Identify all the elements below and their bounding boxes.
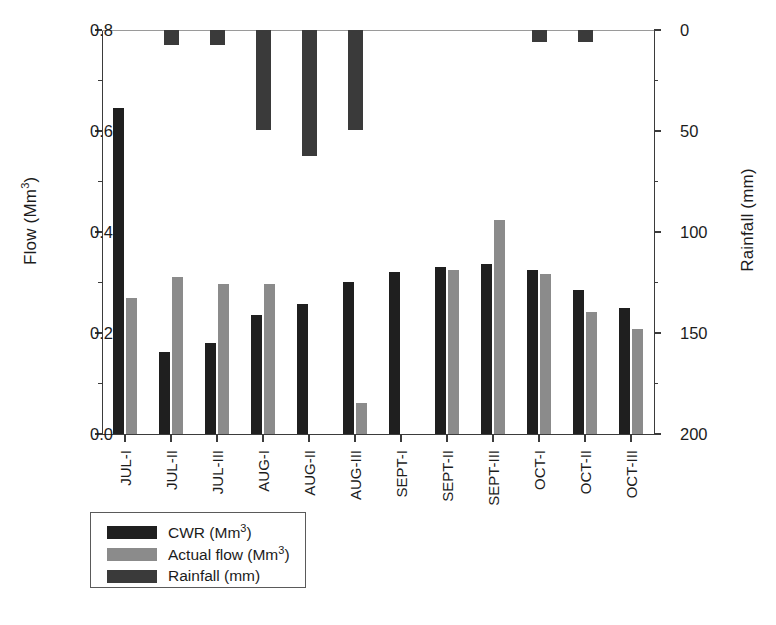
chart-legend: CWR (Mm3)Actual flow (Mm3)Rainfall (mm) [90,512,306,588]
y-axis-right-minor-tick [654,181,658,183]
legend-label: Rainfall (mm) [168,568,260,584]
y-axis-left-title: Flow (Mm3) [19,131,41,311]
y-axis-right-minor-tick [654,383,658,385]
y-axis-left-title-close: ) [21,177,40,183]
x-axis-tick-label-text: OCT-I [531,450,548,490]
x-axis-tick-label-text: SEPT-II [439,450,456,502]
legend-swatch [107,548,157,561]
y-axis-right-minor-tick [654,80,658,82]
y-axis-right-title: Rainfall (mm) [738,130,758,310]
bar-cwr [619,308,630,434]
x-axis-tick-label-text: JUL-I [117,450,134,486]
chart-figure: Flow (Mm3) Rainfall (mm) 0.00.20.40.60.8… [0,0,776,625]
x-axis-tick-label-text: AUG-III [347,450,364,500]
y-axis-right-tick-label: 0 [680,21,689,40]
legend-label-text: Rainfall (mm) [168,567,260,584]
legend-swatch [107,570,157,583]
x-axis-tick-label-text: SEPT-III [485,450,502,506]
y-axis-right-tick [654,433,661,435]
x-axis-tick-label-text: AUG-I [255,450,272,492]
y-axis-left-title-text: Flow (Mm [21,189,40,265]
y-axis-left-title-sup: 3 [19,183,31,189]
legend-swatch [107,526,157,539]
y-axis-right-tick-label: 150 [680,324,708,343]
plot-area: 0.00.20.40.60.8 050100150200 JUL-IJUL-II… [102,30,654,434]
x-axis-tick-label-text: JUL-II [163,450,180,490]
y-axis-right-tick [654,29,661,31]
x-axis-tick-label-text: OCT-III [623,450,640,498]
x-axis-tick-label-text: SEPT-I [393,450,410,498]
y-axis-right-tick-label: 100 [680,223,708,242]
y-axis-right-tick [654,332,661,334]
legend-label-close: ) [284,546,289,563]
x-axis-tick-label-text: OCT-II [577,450,594,494]
y-axis-right-tick-label: 50 [680,122,698,141]
legend-label: Actual flow (Mm3) [168,545,290,563]
legend-label-text: Actual flow (Mm [168,546,278,563]
y-axis-right-tick [654,130,661,132]
legend-label: CWR (Mm3) [168,523,252,541]
x-axis-tick-label-text: AUG-II [301,450,318,496]
legend-item: CWR (Mm3) [107,522,305,542]
legend-label-text: CWR (Mm [168,524,240,541]
legend-item: Actual flow (Mm3) [107,544,305,564]
legend-label-close: ) [246,524,251,541]
legend-item: Rainfall (mm) [107,566,305,586]
x-axis-tick-label-text: JUL-III [209,450,226,494]
y-axis-right-tick [654,231,661,233]
y-axis-right-minor-tick [654,282,658,284]
bar-actual-flow [632,329,643,434]
y-axis-right-tick-label: 200 [680,425,708,444]
bar-group [102,30,654,434]
